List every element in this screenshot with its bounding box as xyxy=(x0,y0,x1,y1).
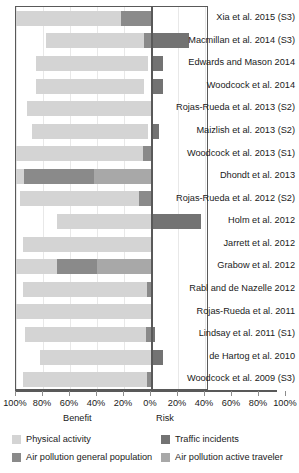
bar-segment xyxy=(16,304,151,319)
axis-tick-label: 60% xyxy=(60,398,78,408)
bar-row xyxy=(16,323,207,346)
study-label: Lindsay et al. 2011 (S1) xyxy=(199,322,295,345)
legend-label: Air pollution active traveler xyxy=(175,452,283,463)
legend-swatch-icon xyxy=(161,435,170,444)
axis-tick xyxy=(150,391,151,396)
study-label: Rojas-Rueda et al. 2011 xyxy=(197,300,295,323)
axis-tick xyxy=(123,391,124,396)
bar-row xyxy=(16,75,207,98)
axis-tick xyxy=(231,391,232,396)
axis-tick xyxy=(258,391,259,396)
bar-row xyxy=(16,301,207,324)
bar-segment xyxy=(151,350,163,365)
bar-row xyxy=(16,143,207,166)
axis-tick-label: 100% xyxy=(273,398,297,408)
axis-tick-label: 0% xyxy=(143,398,156,408)
risk-axis-title: Risk xyxy=(156,413,174,423)
bar-segment xyxy=(151,56,163,71)
axis-tick-label: 100% xyxy=(3,398,27,408)
bar-segment xyxy=(143,146,151,161)
study-label: de Hartog et al. 2010 xyxy=(209,345,295,368)
axis-tick-label: 20% xyxy=(168,398,186,408)
axis-tick xyxy=(15,391,16,396)
bar-segment xyxy=(121,11,151,26)
axis-tick xyxy=(204,391,205,396)
legend-swatch-icon xyxy=(12,453,21,462)
study-label: Grabow et al. 2012 xyxy=(217,254,295,277)
bar-segment xyxy=(32,124,148,139)
bar-row xyxy=(16,30,207,53)
axis-tick-label: 80% xyxy=(249,398,267,408)
axis-tick xyxy=(42,391,43,396)
bar-segment xyxy=(144,33,151,48)
legend-label: Air pollution general population xyxy=(26,452,152,463)
bar-segment xyxy=(23,282,147,297)
legend-label: Traffic incidents xyxy=(175,434,239,445)
legend: Physical activity Traffic incidents Air … xyxy=(6,432,296,468)
axis-tick-label: 80% xyxy=(33,398,51,408)
axis-tick xyxy=(69,391,70,396)
bar-row xyxy=(16,188,207,211)
bar-row xyxy=(16,278,207,301)
legend-label: Physical activity xyxy=(26,434,91,445)
bar-segment xyxy=(97,259,151,274)
study-label: Dhondt et al. 2013 xyxy=(220,164,295,187)
bar-row xyxy=(16,210,207,233)
bar-segment xyxy=(27,101,151,116)
study-label: Xia et al. 2015 (S3) xyxy=(216,6,295,29)
axis-tick-label: 20% xyxy=(114,398,132,408)
bar-row xyxy=(16,346,207,369)
legend-item-air-pollution-active-traveler: Air pollution active traveler xyxy=(161,450,283,464)
bar-row xyxy=(16,97,207,120)
legend-swatch-icon xyxy=(161,453,170,462)
study-label: Maizlish et al. 2013 (S2) xyxy=(196,119,295,142)
bar-row xyxy=(16,52,207,75)
study-label: Woodcock et al. 2014 xyxy=(207,74,295,97)
bar-segment xyxy=(40,350,151,365)
zero-axis-line xyxy=(151,7,153,389)
bar-segment xyxy=(16,169,24,184)
bar-segment xyxy=(46,33,145,48)
plot-area xyxy=(15,6,208,390)
bar-row xyxy=(16,120,207,143)
bar-row xyxy=(16,368,207,391)
axis-tick xyxy=(177,391,178,396)
bar-segment xyxy=(24,169,94,184)
axis-tick-label: 40% xyxy=(87,398,105,408)
axis-tick-label: 60% xyxy=(222,398,240,408)
bar-segment xyxy=(151,214,201,229)
axis-tick xyxy=(285,391,286,396)
bar-row xyxy=(16,233,207,256)
bar-segment xyxy=(16,146,143,161)
legend-item-air-pollution-general-population: Air pollution general population xyxy=(12,450,152,464)
bars-layer xyxy=(16,7,207,389)
study-label: Holm et al. 2012 xyxy=(228,209,295,232)
bar-segment xyxy=(94,169,151,184)
study-label: Jarrett et al. 2012 xyxy=(224,232,296,255)
bar-segment xyxy=(23,372,147,387)
bar-segment xyxy=(16,11,121,26)
bar-segment xyxy=(36,79,144,94)
bar-segment xyxy=(57,259,98,274)
bar-segment xyxy=(139,191,151,206)
bar-segment xyxy=(20,191,139,206)
bar-segment xyxy=(16,259,57,274)
benefit-risk-chart: Xia et al. 2015 (S3)Macmillan et al. 201… xyxy=(0,0,299,473)
bar-segment xyxy=(23,237,151,252)
bar-row xyxy=(16,255,207,278)
axis-tick-label: 40% xyxy=(195,398,213,408)
legend-item-traffic-incidents: Traffic incidents xyxy=(161,432,239,446)
bar-row xyxy=(16,7,207,30)
axis-tick xyxy=(96,391,97,396)
bar-segment xyxy=(36,56,148,71)
bar-segment xyxy=(25,327,145,342)
bar-segment xyxy=(151,79,163,94)
legend-item-physical-activity: Physical activity xyxy=(12,432,91,446)
bar-row xyxy=(16,165,207,188)
bar-segment xyxy=(151,33,189,48)
benefit-axis-title: Benefit xyxy=(63,413,92,423)
legend-swatch-icon xyxy=(12,435,21,444)
bar-segment xyxy=(57,214,152,229)
